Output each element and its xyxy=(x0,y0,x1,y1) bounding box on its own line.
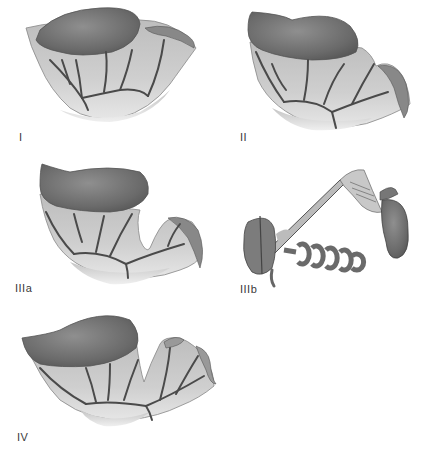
mesentery-illustration-i xyxy=(0,0,212,150)
panel-label-i: I xyxy=(19,131,23,143)
panel-iiib: IIIb xyxy=(212,150,424,300)
mesentery-illustration-iiia xyxy=(0,150,212,300)
panel-label-iiia: IIIa xyxy=(15,282,32,294)
panel-label-ii: II xyxy=(240,131,247,143)
panel-i: I xyxy=(0,0,212,150)
panel-iv: IV xyxy=(0,300,230,455)
panel-label-iiib: IIIb xyxy=(240,283,257,295)
panel-ii: II xyxy=(212,0,424,150)
mesentery-illustration-ii xyxy=(212,0,424,150)
panel-label-iv: IV xyxy=(17,431,28,443)
volvulus-illustration-iiib xyxy=(212,150,424,300)
panel-iiia: IIIa xyxy=(0,150,212,300)
mesentery-illustration-iv xyxy=(0,300,230,455)
